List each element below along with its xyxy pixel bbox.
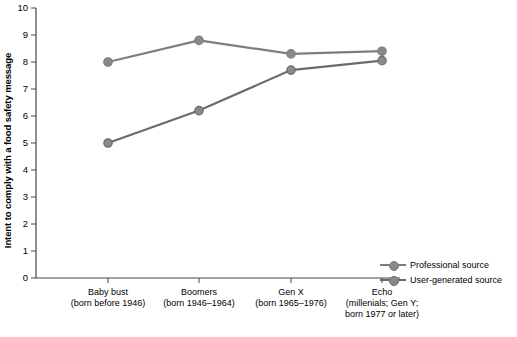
legend-label-professional-source: Professional source bbox=[410, 260, 489, 270]
legend-item-user-generated-source[interactable]: User-generated source bbox=[380, 273, 502, 287]
data-point bbox=[287, 50, 295, 58]
legend-marker-icon bbox=[389, 276, 399, 286]
series-user-generated-source bbox=[104, 56, 386, 147]
legend-marker-icon bbox=[389, 261, 399, 271]
chart-container: Intent to comply with a food safety mess… bbox=[0, 0, 517, 337]
series-2-markers bbox=[104, 56, 386, 147]
x-category-label-echo: Echo (millenials; Gen Y; born 1977 or la… bbox=[322, 287, 442, 320]
data-point bbox=[195, 106, 203, 114]
legend-item-professional-source[interactable]: Professional source bbox=[380, 258, 502, 272]
data-point bbox=[104, 139, 112, 147]
series-1-line bbox=[108, 40, 382, 62]
data-point bbox=[195, 36, 203, 44]
data-point bbox=[104, 58, 112, 66]
series-professional-source bbox=[104, 36, 386, 66]
legend: Professional source User-generated sourc… bbox=[380, 258, 502, 288]
series-1-markers bbox=[104, 36, 386, 66]
legend-label-user-generated-source: User-generated source bbox=[410, 275, 502, 285]
data-point bbox=[378, 56, 386, 64]
legend-swatch-professional-source bbox=[380, 259, 406, 271]
series-2-line bbox=[108, 61, 382, 143]
data-point bbox=[378, 47, 386, 55]
data-point bbox=[287, 66, 295, 74]
legend-swatch-user-generated-source bbox=[380, 274, 406, 286]
